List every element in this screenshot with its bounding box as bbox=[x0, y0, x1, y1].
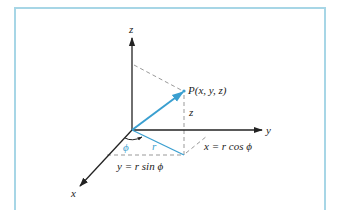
point-label: P(x, y, z) bbox=[187, 84, 227, 97]
radius-line bbox=[132, 130, 184, 155]
y-axis-label: y bbox=[265, 124, 271, 136]
radius-label: r bbox=[152, 140, 157, 152]
point-p bbox=[182, 89, 185, 92]
z-axis-label: z bbox=[128, 23, 134, 35]
height-label: z bbox=[188, 106, 194, 118]
y-equation: y = r sin ϕ bbox=[116, 160, 163, 172]
angle-arc bbox=[125, 137, 142, 140]
x-equation: x = r cos ϕ bbox=[203, 140, 252, 152]
angle-label: ϕ bbox=[123, 141, 129, 153]
x-axis-label: x bbox=[70, 187, 76, 199]
cylindrical-coordinates-diagram: z y x P(x, y, z) z ϕ r x = r cos ϕ y = r… bbox=[0, 0, 340, 210]
position-vector bbox=[132, 92, 183, 130]
x-axis bbox=[80, 130, 132, 186]
